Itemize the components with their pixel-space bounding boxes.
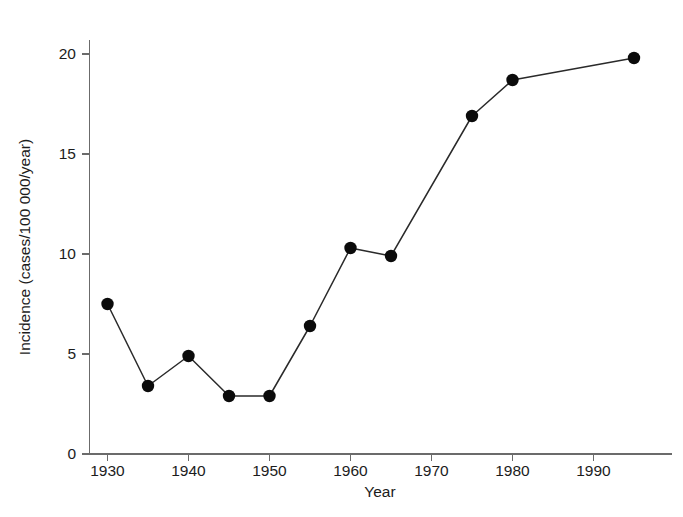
y-tick-label-0: 0 [67, 445, 76, 462]
data-point-1975 [466, 110, 478, 122]
x-axis-title: Year [364, 483, 395, 500]
data-point-1955 [304, 320, 316, 332]
x-tick-label-1960: 1960 [333, 462, 368, 479]
data-point-1935 [142, 380, 154, 392]
data-point-1960 [344, 242, 356, 254]
data-point-1940 [182, 350, 194, 362]
x-tick-label-1950: 1950 [252, 462, 287, 479]
x-tick-label-1970: 1970 [414, 462, 449, 479]
y-tick-label-5: 5 [67, 345, 76, 362]
data-point-1980 [506, 74, 518, 86]
data-point-1950 [263, 390, 275, 402]
data-point-1945 [223, 390, 235, 402]
data-point-1965 [385, 250, 397, 262]
data-point-1995 [628, 52, 640, 64]
incidence-line-chart: 05101520 Incidence (cases/100 000/year) … [0, 0, 683, 517]
x-tick-label-1930: 1930 [90, 462, 125, 479]
x-tick-label-1980: 1980 [495, 462, 530, 479]
x-tick-label-1940: 1940 [171, 462, 206, 479]
y-tick-label-10: 10 [59, 245, 77, 262]
y-tick-label-20: 20 [59, 45, 77, 62]
data-point-1930 [101, 298, 113, 310]
chart-background [0, 0, 683, 517]
x-tick-label-1990: 1990 [576, 462, 611, 479]
y-axis-title: Incidence (cases/100 000/year) [16, 139, 33, 355]
y-tick-label-15: 15 [59, 145, 76, 162]
chart-figure: 05101520 Incidence (cases/100 000/year) … [0, 0, 683, 517]
